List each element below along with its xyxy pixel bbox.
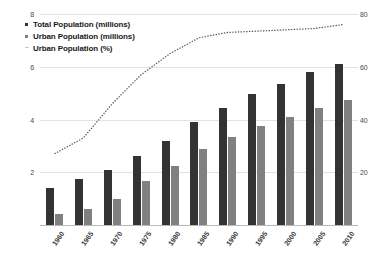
x-tick-label: 1995	[254, 230, 269, 247]
y-tick-label-right: 60	[360, 64, 386, 71]
x-tick-cell: 2010	[329, 226, 358, 269]
bar-group	[242, 14, 271, 225]
x-tick-cell: 1980	[156, 226, 185, 269]
bar-urban-population	[171, 166, 179, 225]
bar-urban-population	[315, 108, 323, 225]
y-tick-label-left: 2	[8, 169, 34, 176]
bar-total-population	[277, 84, 285, 225]
bar-total-population	[104, 170, 112, 225]
x-tick-cell: 2000	[271, 226, 300, 269]
legend-item: Urban Population (millions)	[22, 30, 135, 42]
x-tick-label: 1965	[80, 230, 95, 247]
y-tick-label-right: 20	[360, 169, 386, 176]
chart-legend: Total Population (millions) Urban Popula…	[22, 18, 135, 54]
x-tick-label: 1980	[167, 230, 182, 247]
bar-urban-population	[344, 100, 352, 225]
legend-swatch-urban-percent: ··	[22, 44, 31, 52]
bar-total-population	[46, 188, 54, 225]
x-tick-cell: 1970	[98, 226, 127, 269]
bar-total-population	[335, 64, 343, 225]
bar-urban-population	[84, 209, 92, 225]
x-tick-label: 1960	[51, 230, 66, 247]
legend-label: Total Population (millions)	[33, 20, 130, 29]
x-tick-cell: 1985	[185, 226, 214, 269]
legend-swatch-total-population	[22, 23, 31, 26]
x-tick-cell: 1990	[213, 226, 242, 269]
bar-group	[213, 14, 242, 225]
bar-total-population	[75, 179, 83, 225]
bar-group	[185, 14, 214, 225]
bar-urban-population	[142, 181, 150, 225]
bar-group	[156, 14, 185, 225]
x-tick-label: 2010	[340, 230, 355, 247]
x-tick-label: 1990	[225, 230, 240, 247]
x-tick-cell: 1960	[40, 226, 69, 269]
bar-total-population	[190, 122, 198, 225]
legend-label: Urban Population (millions)	[33, 32, 135, 41]
x-tick-label: 1975	[138, 230, 153, 247]
bar-total-population	[306, 72, 314, 225]
x-tick-label: 2000	[283, 230, 298, 247]
legend-item: Total Population (millions)	[22, 18, 135, 30]
bar-urban-population	[228, 137, 236, 225]
x-tick-cell: 2005	[300, 226, 329, 269]
y-tick-label-left: 6	[8, 64, 34, 71]
x-tick-cell: 1975	[127, 226, 156, 269]
chart-container: 8642 80604020 19601965197019751980198519…	[0, 0, 390, 269]
legend-label: Urban Population (%)	[33, 44, 112, 53]
x-axis-labels: 1960196519701975198019851990199520002005…	[40, 226, 358, 269]
x-tick-cell: 1965	[69, 226, 98, 269]
x-tick-label: 1985	[196, 230, 211, 247]
bar-group	[329, 14, 358, 225]
bar-urban-population	[113, 199, 121, 225]
bar-total-population	[133, 156, 141, 225]
x-tick-label: 2005	[311, 230, 326, 247]
bar-total-population	[248, 94, 256, 225]
y-tick-label-left: 4	[8, 117, 34, 124]
y-tick-label-right: 40	[360, 117, 386, 124]
bar-total-population	[219, 108, 227, 225]
y-tick-label-right: 80	[360, 11, 386, 18]
bar-group	[271, 14, 300, 225]
x-tick-label: 1970	[109, 230, 124, 247]
legend-item: ·· Urban Population (%)	[22, 42, 135, 54]
bar-urban-population	[286, 117, 294, 225]
bar-urban-population	[55, 214, 63, 225]
bar-group	[300, 14, 329, 225]
x-tick-cell: 1995	[242, 226, 271, 269]
bar-urban-population	[257, 126, 265, 225]
y-tick-label-left: 8	[8, 11, 34, 18]
legend-swatch-urban-population	[22, 35, 31, 38]
bar-total-population	[162, 141, 170, 225]
bar-urban-population	[199, 149, 207, 225]
